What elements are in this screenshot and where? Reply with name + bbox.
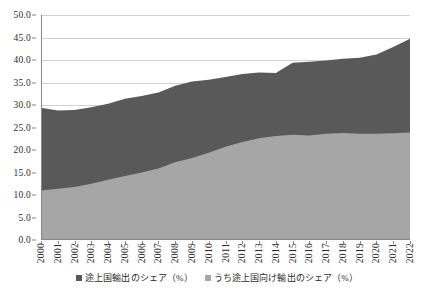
x-axis-tick-label: 2007 — [153, 243, 163, 263]
x-axis-tick-label: 2010 — [204, 243, 214, 263]
legend-label: 途上国輸出のシェア（%） — [85, 271, 193, 284]
x-axis-tick-label: 2013 — [254, 243, 264, 263]
y-axis-tick-label: 45.0 — [14, 33, 31, 43]
x-axis-tick-label: 2018 — [338, 243, 348, 263]
legend-swatch-icon — [76, 275, 82, 281]
y-axis-tick-label: 25.0 — [14, 123, 31, 133]
x-axis-tick-label: 2004 — [103, 243, 113, 263]
y-axis-tick-label: 15.0 — [14, 168, 31, 178]
y-axis-tick-label: 10.0 — [14, 190, 31, 200]
y-axis-tick-mark — [32, 240, 36, 241]
y-axis-tick-mark — [32, 195, 36, 196]
x-axis-tick-label: 2006 — [137, 243, 147, 263]
legend-item[interactable]: うち途上国向け輸出のシェア（%） — [205, 271, 358, 284]
y-axis: 0.05.010.015.020.025.030.035.040.045.050… — [0, 15, 36, 240]
y-axis-tick-mark — [32, 172, 36, 173]
x-axis-tick-label: 2014 — [271, 243, 281, 263]
x-axis-tick-label: 2017 — [321, 243, 331, 263]
x-axis-tick-label: 2012 — [237, 243, 247, 263]
legend-item[interactable]: 途上国輸出のシェア（%） — [76, 271, 193, 284]
chart-legend: 途上国輸出のシェア（%）うち途上国向け輸出のシェア（%） — [0, 271, 434, 284]
y-axis-tick-mark — [32, 60, 36, 61]
y-axis-tick-mark — [32, 150, 36, 151]
x-axis-tick-label: 2001 — [53, 243, 63, 263]
x-axis-tick-label: 2003 — [86, 243, 96, 263]
x-axis-tick-label: 2000 — [36, 243, 46, 263]
y-axis-tick-label: 40.0 — [14, 55, 31, 65]
x-axis-tick-label: 2019 — [355, 243, 365, 263]
legend-label: うち途上国向け輸出のシェア（%） — [214, 271, 358, 284]
x-axis-tick-label: 2021 — [388, 243, 398, 263]
legend-swatch-icon — [205, 275, 211, 281]
x-axis-tick-label: 2008 — [170, 243, 180, 263]
x-axis-tick-label: 2015 — [288, 243, 298, 263]
x-axis-tick-label: 2022 — [405, 243, 415, 263]
x-axis-tick-label: 2020 — [371, 243, 381, 263]
plot-frame — [41, 15, 410, 240]
y-axis-tick-mark — [32, 127, 36, 128]
y-axis-tick-label: 50.0 — [14, 10, 31, 20]
area-chart: 0.05.010.015.020.025.030.035.040.045.050… — [0, 0, 434, 289]
y-axis-tick-mark — [32, 15, 36, 16]
x-axis-tick-label: 2011 — [221, 243, 231, 263]
y-axis-tick-label: 5.0 — [19, 213, 31, 223]
y-axis-tick-label: 0.0 — [19, 235, 31, 245]
x-axis-tick-label: 2016 — [304, 243, 314, 263]
y-axis-tick-label: 35.0 — [14, 78, 31, 88]
y-axis-tick-mark — [32, 217, 36, 218]
y-axis-tick-mark — [32, 82, 36, 83]
y-axis-tick-label: 20.0 — [14, 145, 31, 155]
y-axis-tick-mark — [32, 37, 36, 38]
x-axis-tick-label: 2002 — [70, 243, 80, 263]
y-axis-tick-mark — [32, 105, 36, 106]
x-axis-tick-label: 2005 — [120, 243, 130, 263]
y-axis-tick-label: 30.0 — [14, 100, 31, 110]
x-axis-tick-label: 2009 — [187, 243, 197, 263]
plot-area — [41, 15, 410, 240]
